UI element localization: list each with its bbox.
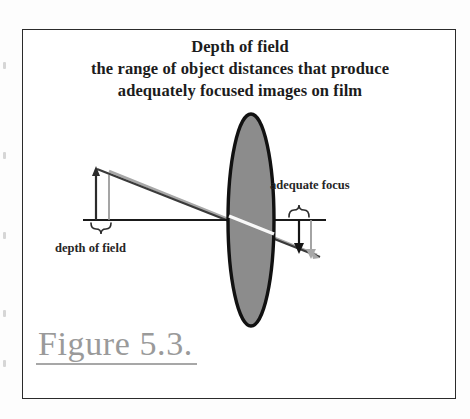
scan-artifact [3,152,6,159]
page-canvas: Depth of field the range of object dista… [0,0,470,419]
scan-artifact [3,360,6,367]
image-arrows [294,220,316,259]
adequate-focus-brace [289,205,309,217]
figure-border-box: Depth of field the range of object dista… [22,29,456,399]
label-adequate-focus: adequate focus [270,178,350,193]
figure-number-caption: Figure 5.3. [36,326,197,365]
scan-artifact [3,232,6,239]
object-arrows [92,166,109,220]
depth-of-field-brace [91,223,111,234]
label-depth-of-field: depth of field [55,241,126,256]
object-arrow-near-head [92,166,100,176]
scan-artifact [3,62,6,69]
scan-artifact [3,310,6,317]
